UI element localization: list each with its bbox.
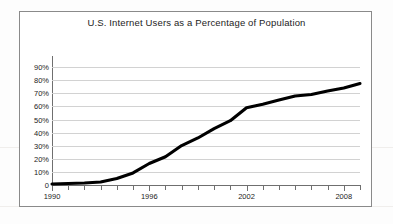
x-tick-2008 — [344, 186, 345, 191]
x-tick-1996 — [149, 186, 150, 191]
gridline-30 — [52, 146, 360, 147]
x-tick-2003 — [263, 186, 264, 190]
gridline-20 — [52, 159, 360, 160]
x-tick-2001 — [230, 186, 231, 190]
y-tick-label: 60% — [34, 102, 49, 111]
x-tick-label: 1996 — [141, 192, 158, 201]
y-tick-label: 90% — [34, 63, 49, 72]
x-tick-label: 1990 — [44, 192, 61, 201]
gridline-70 — [52, 93, 360, 94]
x-tick-2009 — [360, 186, 361, 190]
plot-area — [52, 57, 360, 185]
x-tick-1997 — [165, 186, 166, 190]
x-tick-1990 — [52, 186, 53, 191]
y-tick-label: 50% — [34, 115, 49, 124]
x-tick-1998 — [182, 186, 183, 190]
y-tick-label: 10% — [34, 167, 49, 176]
x-tick-1993 — [101, 186, 102, 190]
gridline-90 — [52, 67, 360, 68]
y-tick-label: 30% — [34, 141, 49, 150]
gridline-50 — [52, 120, 360, 121]
x-tick-1991 — [68, 186, 69, 190]
x-tick-1999 — [198, 186, 199, 190]
x-tick-2002 — [247, 186, 248, 191]
x-tick-2005 — [295, 186, 296, 190]
gridline-60 — [52, 106, 360, 107]
y-tick-label: 20% — [34, 154, 49, 163]
gridline-40 — [52, 133, 360, 134]
chart-title: U.S. Internet Users as a Percentage of P… — [0, 17, 393, 28]
x-tick-2004 — [279, 186, 280, 190]
y-tick-label: 80% — [34, 76, 49, 85]
x-tick-2007 — [328, 186, 329, 190]
y-tick-label: 70% — [34, 89, 49, 98]
gridline-80 — [52, 80, 360, 81]
x-axis-line — [52, 185, 361, 186]
x-tick-1995 — [133, 186, 134, 190]
x-tick-1994 — [117, 186, 118, 190]
x-tick-label: 2002 — [238, 192, 255, 201]
gridline-10 — [52, 172, 360, 173]
y-tick-label: 0 — [45, 181, 49, 190]
x-tick-2006 — [311, 186, 312, 190]
x-tick-2000 — [214, 186, 215, 190]
y-tick-label: 40% — [34, 128, 49, 137]
x-tick-label: 2008 — [335, 192, 352, 201]
x-tick-1992 — [84, 186, 85, 190]
